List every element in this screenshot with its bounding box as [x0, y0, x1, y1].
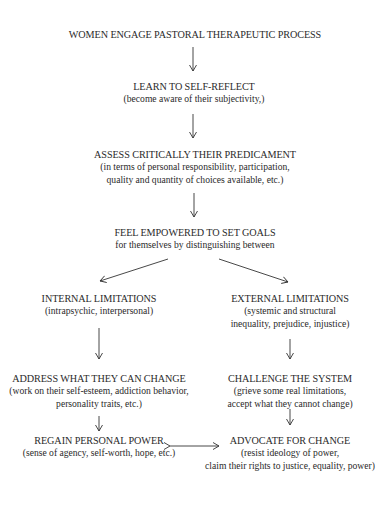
node-subtitle: (resist ideology of power, — [190, 447, 390, 460]
node-challenge: CHALLENGE THE SYSTEM (grieve some real l… — [190, 372, 390, 410]
node-subtitle: quality and quantity of choices availabl… — [0, 174, 390, 187]
arrow-goals-internal — [100, 259, 168, 281]
node-subtitle: (intrapsychic, interpersonal) — [0, 305, 198, 318]
node-subtitle: accept what they cannot change) — [190, 398, 390, 411]
node-title: ADDRESS WHAT THEY CAN CHANGE — [0, 372, 198, 385]
node-subtitle: inequality, prejudice, injustice) — [190, 318, 390, 331]
node-subtitle: claim their rights to justice, equality,… — [190, 460, 390, 473]
node-title: ASSESS CRITICALLY THEIR PREDICAMENT — [0, 148, 390, 161]
node-title: ADVOCATE FOR CHANGE — [190, 434, 390, 447]
node-title: CHALLENGE THE SYSTEM — [190, 372, 390, 385]
node-title: WOMEN ENGAGE PASTORAL THERAPEUTIC PROCES… — [0, 28, 390, 41]
node-subtitle: (sense of agency, self-worth, hope, etc.… — [0, 447, 198, 460]
node-address: ADDRESS WHAT THEY CAN CHANGE (work on th… — [0, 372, 198, 410]
node-title: REGAIN PERSONAL POWER — [0, 434, 198, 447]
node-reflect: LEARN TO SELF-REFLECT (become aware of t… — [0, 80, 388, 106]
node-subtitle: (systemic and structural — [190, 305, 390, 318]
node-subtitle: (grieve some real limitations, — [190, 385, 390, 398]
node-subtitle: for themselves by distinguishing between — [0, 239, 390, 252]
node-subtitle: (work on their self-esteem, addiction be… — [0, 385, 198, 398]
node-title: INTERNAL LIMITATIONS — [0, 292, 198, 305]
node-advocate: ADVOCATE FOR CHANGE (resist ideology of … — [190, 434, 390, 472]
node-assess: ASSESS CRITICALLY THEIR PREDICAMENT (in … — [0, 148, 390, 186]
arrow-goals-external — [219, 259, 288, 282]
node-subtitle: (in terms of personal responsibility, pa… — [0, 161, 390, 174]
node-internal: INTERNAL LIMITATIONS (intrapsychic, inte… — [0, 292, 198, 318]
node-external: EXTERNAL LIMITATIONS (systemic and struc… — [190, 292, 390, 330]
node-regain: REGAIN PERSONAL POWER (sense of agency, … — [0, 434, 198, 460]
node-subtitle: personality traits, etc.) — [0, 398, 198, 411]
node-title: LEARN TO SELF-REFLECT — [0, 80, 388, 93]
node-engage: WOMEN ENGAGE PASTORAL THERAPEUTIC PROCES… — [0, 28, 390, 41]
node-goals: FEEL EMPOWERED TO SET GOALS for themselv… — [0, 226, 390, 252]
node-subtitle: (become aware of their subjectivity,) — [0, 93, 388, 106]
node-title: EXTERNAL LIMITATIONS — [190, 292, 390, 305]
node-title: FEEL EMPOWERED TO SET GOALS — [0, 226, 390, 239]
diagram-arrows — [0, 0, 390, 507]
